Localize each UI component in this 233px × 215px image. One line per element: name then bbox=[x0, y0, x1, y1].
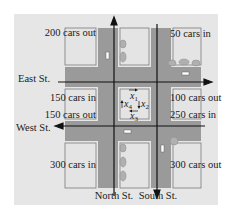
car-icon bbox=[120, 171, 126, 181]
car-icon bbox=[179, 59, 189, 65]
east-st-road bbox=[65, 67, 201, 87]
traffic-diagram: 200 cars out 50 cars in East St. 150 car… bbox=[0, 0, 233, 215]
label-west-right: 250 cars in bbox=[170, 109, 217, 120]
x1-subscript: 1 bbox=[134, 95, 138, 103]
label-top-left: 200 cars out bbox=[45, 27, 96, 38]
car-icon bbox=[168, 60, 176, 66]
label-bottom-left: 300 cars in bbox=[50, 159, 97, 170]
label-top-right: 50 cars in bbox=[170, 28, 212, 39]
west-st-road bbox=[65, 121, 201, 141]
label-east-street: East St. bbox=[18, 73, 50, 84]
car-icon bbox=[120, 157, 126, 167]
car-icon bbox=[192, 60, 200, 66]
label-east-right: 100 cars out bbox=[170, 92, 221, 103]
car-icon bbox=[124, 130, 131, 133]
x2-subscript: 2 bbox=[145, 103, 149, 111]
car-icon bbox=[120, 144, 126, 152]
car-icon bbox=[106, 52, 109, 59]
label-west-street: West St. bbox=[16, 122, 51, 133]
x3-subscript: 3 bbox=[134, 115, 138, 123]
car-icon bbox=[120, 52, 126, 62]
label-east-left: 150 cars in bbox=[50, 92, 97, 103]
label-west-left: 150 cars out bbox=[45, 109, 96, 120]
car-icon bbox=[182, 72, 189, 75]
car-icon bbox=[120, 40, 126, 48]
label-north-street: North St. bbox=[95, 190, 134, 201]
car-icon bbox=[161, 145, 164, 152]
label-bottom-right: 300 cars out bbox=[170, 159, 221, 170]
car-icon bbox=[170, 137, 178, 145]
label-south-street: South St. bbox=[139, 190, 178, 201]
south-st-road bbox=[151, 28, 171, 188]
